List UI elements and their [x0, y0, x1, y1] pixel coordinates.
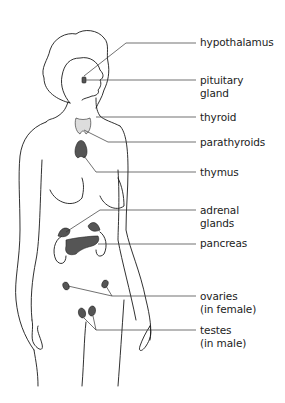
label-text: hypothalamus [200, 36, 274, 48]
torso-right [120, 126, 151, 340]
pancreas-shape [66, 236, 99, 255]
breast-left [50, 178, 84, 204]
thymus-shape [75, 141, 87, 159]
label-pancreas: pancreas [200, 237, 247, 250]
label-thymus: thymus [200, 166, 239, 179]
label-text: pancreas [200, 237, 247, 249]
label-ovaries: ovaries(in female) [200, 290, 256, 316]
pituitary-shape [82, 77, 86, 83]
label-adrenal: adrenalglands [200, 204, 239, 230]
label-thyroid: thyroid [200, 111, 236, 124]
leader-ovaries [68, 286, 196, 296]
label-text: (in female) [200, 303, 256, 316]
neck-right [96, 98, 120, 126]
label-testes: testes(in male) [200, 324, 246, 350]
label-pituitary: pituitarygland [200, 74, 243, 100]
label-text: thymus [200, 166, 239, 178]
hair-outline [43, 31, 109, 108]
leader-testes [84, 316, 196, 330]
label-text: thyroid [200, 111, 236, 123]
label-hypothalamus: hypothalamus [200, 36, 274, 49]
label-text: pituitary [200, 74, 243, 87]
leg-left [34, 350, 38, 386]
testis-left [77, 307, 86, 318]
label-text: testes [200, 324, 246, 337]
hand-left [32, 320, 42, 349]
kidney-left [54, 236, 66, 263]
testis-right [88, 305, 97, 316]
label-text: (in male) [200, 337, 246, 350]
label-parathyroids: parathyroids [200, 136, 265, 149]
leg-right [118, 300, 124, 386]
thyroid-shape [75, 118, 91, 134]
torso-left [16, 122, 46, 350]
label-text: gland [200, 87, 243, 100]
leader-adrenal [66, 210, 196, 232]
ovary-right [101, 279, 109, 289]
arm-left-inner [31, 160, 42, 320]
adrenal-right [88, 223, 100, 232]
label-text: glands [200, 217, 239, 230]
label-text: adrenal [200, 204, 239, 217]
adrenal-left [58, 228, 70, 237]
neck-left [46, 102, 68, 122]
label-text: parathyroids [200, 136, 265, 148]
leader-thymus [84, 156, 196, 172]
leg-center [82, 322, 86, 386]
leader-parathyroids [84, 130, 196, 142]
breast-right [100, 178, 124, 208]
label-text: ovaries [200, 290, 256, 303]
